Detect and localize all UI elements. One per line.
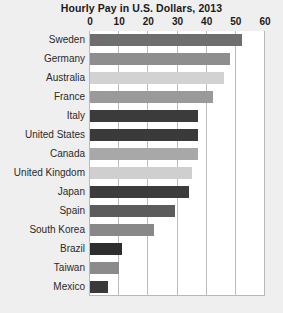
bar-brazil	[90, 243, 122, 255]
category-label-sweden: Sweden	[49, 34, 85, 46]
bar-germany	[90, 53, 230, 65]
bar-australia	[90, 72, 224, 84]
x-tick-label-40: 40	[201, 16, 212, 27]
category-label-germany: Germany	[44, 53, 85, 65]
x-tick-label-30: 30	[172, 16, 183, 27]
bar-chart: Hourly Pay in U.S. Dollars, 2013 0102030…	[0, 0, 283, 313]
bar-south-korea	[90, 224, 154, 236]
y-axis-category-labels: SwedenGermanyAustraliaFranceItalyUnited …	[0, 31, 85, 296]
x-axis-tick-labels: 0102030405060	[0, 16, 283, 30]
bar-spain	[90, 205, 175, 217]
x-tick-label-60: 60	[259, 16, 270, 27]
bar-france	[90, 91, 213, 103]
bar-mexico	[90, 281, 108, 293]
category-label-italy: Italy	[67, 110, 85, 122]
category-label-spain: Spain	[59, 205, 85, 217]
category-label-south-korea: South Korea	[29, 224, 85, 236]
x-tick-label-50: 50	[230, 16, 241, 27]
bar-sweden	[90, 34, 242, 46]
category-label-australia: Australia	[46, 72, 85, 84]
bar-united-kingdom	[90, 167, 192, 179]
category-label-brazil: Brazil	[60, 243, 85, 255]
chart-title: Hourly Pay in U.S. Dollars, 2013	[0, 2, 283, 14]
bar-italy	[90, 110, 198, 122]
bar-united-states	[90, 129, 198, 141]
category-label-japan: Japan	[58, 186, 85, 198]
category-label-taiwan: Taiwan	[54, 262, 85, 274]
category-label-united-states: United States	[25, 129, 85, 141]
x-tick-label-10: 10	[114, 16, 125, 27]
category-label-united-kingdom: United Kingdom	[14, 167, 85, 179]
category-label-mexico: Mexico	[53, 281, 85, 293]
bar-taiwan	[90, 262, 119, 274]
bar-canada	[90, 148, 198, 160]
category-label-canada: Canada	[50, 148, 85, 160]
x-tick-label-0: 0	[87, 16, 93, 27]
x-tick-label-20: 20	[143, 16, 154, 27]
bar-japan	[90, 186, 189, 198]
category-label-france: France	[54, 91, 85, 103]
bars-layer	[90, 31, 265, 296]
